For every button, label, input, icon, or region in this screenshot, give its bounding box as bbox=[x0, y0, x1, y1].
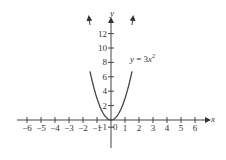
y-tick-label: 2 bbox=[103, 101, 108, 111]
x-tick-label: −3 bbox=[64, 123, 74, 133]
right-arrow bbox=[132, 18, 133, 25]
y-tick-label: 4 bbox=[103, 86, 108, 96]
x-tick-label: −6 bbox=[22, 123, 32, 133]
left-arrow bbox=[89, 18, 90, 25]
x-tick-label: 4 bbox=[165, 123, 170, 133]
origin-label: 0 bbox=[113, 122, 118, 132]
x-tick-label: 3 bbox=[151, 123, 156, 133]
y-tick-label: 10 bbox=[98, 43, 108, 53]
x-tick-label: −4 bbox=[50, 123, 60, 133]
y-tick-label: 6 bbox=[103, 72, 108, 82]
x-tick-label: −5 bbox=[36, 123, 46, 133]
parabola-chart: x y −6−5−4−3−2−1123456 −124681012 0 y = … bbox=[0, 0, 226, 160]
x-tick-label: 2 bbox=[137, 123, 142, 133]
x-axis-label: x bbox=[210, 114, 215, 124]
x-tick-label: 1 bbox=[123, 123, 128, 133]
x-tick-label: 6 bbox=[193, 123, 198, 133]
x-tick-label: −2 bbox=[78, 123, 88, 133]
y-tick-label: −1 bbox=[97, 122, 107, 132]
y-axis-label: y bbox=[109, 8, 114, 18]
x-tick-label: 5 bbox=[179, 123, 184, 133]
y-tick-label: 8 bbox=[103, 57, 108, 67]
y-tick-label: 12 bbox=[98, 29, 107, 39]
equation-label: y = 3x2 bbox=[129, 53, 155, 64]
